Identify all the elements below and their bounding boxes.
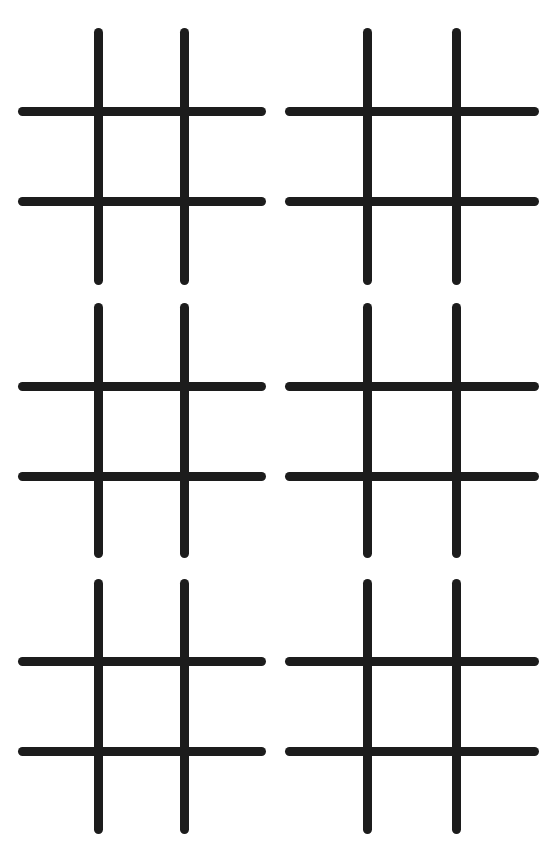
grid-line-vertical — [94, 303, 103, 558]
board-cell[interactable] — [103, 584, 180, 657]
grid-line-vertical — [452, 28, 461, 285]
board-cell[interactable] — [290, 756, 363, 830]
board-cell[interactable] — [372, 666, 452, 747]
board-cell[interactable] — [461, 756, 535, 830]
board-cell[interactable] — [103, 33, 180, 107]
board-cell[interactable] — [23, 584, 94, 657]
grid-line-horizontal — [285, 657, 539, 666]
board-cell[interactable] — [103, 391, 180, 472]
board-cell[interactable] — [290, 116, 363, 197]
board-cell[interactable] — [290, 666, 363, 747]
board-cell[interactable] — [461, 584, 535, 657]
board-cell[interactable] — [290, 584, 363, 657]
board-cell[interactable] — [290, 206, 363, 281]
grid-line-horizontal — [285, 107, 539, 116]
grid-line-vertical — [363, 28, 372, 285]
grid-line-vertical — [452, 579, 461, 834]
board-cell[interactable] — [103, 666, 180, 747]
board-cell[interactable] — [23, 116, 94, 197]
board-cell[interactable] — [372, 584, 452, 657]
board-cell[interactable] — [461, 33, 535, 107]
grid-line-vertical — [180, 579, 189, 834]
board-cell[interactable] — [103, 308, 180, 382]
board-cell[interactable] — [189, 584, 262, 657]
board-cell[interactable] — [23, 33, 94, 107]
grid-line-vertical — [363, 303, 372, 558]
board-cell[interactable] — [23, 481, 94, 554]
board-cell[interactable] — [372, 308, 452, 382]
board-cell[interactable] — [461, 481, 535, 554]
board-cell[interactable] — [23, 666, 94, 747]
grid-line-horizontal — [18, 197, 266, 206]
grid-line-horizontal — [285, 747, 539, 756]
grid-line-horizontal — [285, 472, 539, 481]
board-cell[interactable] — [461, 116, 535, 197]
board-cell[interactable] — [290, 391, 363, 472]
grid-line-vertical — [452, 303, 461, 558]
tic-tac-toe-board-2 — [285, 28, 539, 285]
board-cell[interactable] — [189, 206, 262, 281]
grid-line-horizontal — [285, 197, 539, 206]
board-cell[interactable] — [103, 756, 180, 830]
board-cell[interactable] — [23, 391, 94, 472]
board-cell[interactable] — [23, 308, 94, 382]
board-cell[interactable] — [189, 756, 262, 830]
grid-line-horizontal — [18, 107, 266, 116]
grid-line-horizontal — [18, 657, 266, 666]
board-cell[interactable] — [103, 481, 180, 554]
grid-line-vertical — [94, 579, 103, 834]
board-cell[interactable] — [461, 391, 535, 472]
board-cell[interactable] — [189, 481, 262, 554]
board-cell[interactable] — [372, 481, 452, 554]
board-cell[interactable] — [103, 206, 180, 281]
board-cell[interactable] — [189, 308, 262, 382]
board-cell[interactable] — [23, 756, 94, 830]
tic-tac-toe-board-5 — [18, 579, 266, 834]
board-cell[interactable] — [461, 206, 535, 281]
board-cell[interactable] — [461, 666, 535, 747]
board-cell[interactable] — [189, 666, 262, 747]
board-cell[interactable] — [290, 481, 363, 554]
board-cell[interactable] — [290, 308, 363, 382]
grid-line-vertical — [180, 303, 189, 558]
board-cell[interactable] — [372, 206, 452, 281]
grid-line-horizontal — [18, 382, 266, 391]
board-cell[interactable] — [290, 33, 363, 107]
tic-tac-toe-board-1 — [18, 28, 266, 285]
grid-line-horizontal — [18, 747, 266, 756]
board-cell[interactable] — [23, 206, 94, 281]
grid-line-vertical — [363, 579, 372, 834]
board-cell[interactable] — [372, 116, 452, 197]
tic-tac-toe-board-4 — [285, 303, 539, 558]
board-cell[interactable] — [461, 308, 535, 382]
grid-line-horizontal — [285, 382, 539, 391]
grid-line-vertical — [180, 28, 189, 285]
board-cell[interactable] — [189, 391, 262, 472]
board-cell[interactable] — [372, 756, 452, 830]
board-cell[interactable] — [189, 33, 262, 107]
tic-tac-toe-board-3 — [18, 303, 266, 558]
board-cell[interactable] — [103, 116, 180, 197]
grid-line-horizontal — [18, 472, 266, 481]
board-cell[interactable] — [372, 391, 452, 472]
board-cell[interactable] — [372, 33, 452, 107]
grid-line-vertical — [94, 28, 103, 285]
board-cell[interactable] — [189, 116, 262, 197]
tic-tac-toe-board-6 — [285, 579, 539, 834]
